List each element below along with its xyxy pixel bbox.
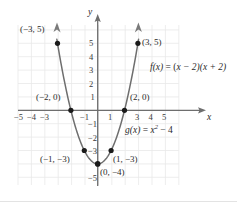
point-label-0-neg4: (0, −4)	[100, 168, 125, 177]
y-tick-2: 2	[89, 80, 93, 89]
point-2-0	[122, 108, 127, 113]
x-tick-minus5: −5	[14, 113, 23, 122]
point-label-1-neg3: (1, −3)	[113, 155, 138, 164]
x-tick-1: 1	[108, 113, 112, 122]
x-tick-3: 3	[135, 113, 139, 122]
x-tick-minus4: −4	[27, 113, 36, 122]
y-axis-label: y	[88, 8, 92, 18]
function-g-equation: g(x) = x2 − 4	[125, 124, 173, 136]
point-label-neg1-neg3: (−1, −3)	[40, 155, 70, 164]
point-1-neg3	[109, 148, 114, 153]
point-0-neg4	[95, 161, 101, 167]
point-label-2-0: (2, 0)	[130, 93, 150, 102]
bottom-divider	[0, 201, 237, 202]
point-neg3-5	[55, 41, 60, 46]
y-tick-minus3: −3	[88, 147, 97, 156]
function-f-body: x − 2)(x + 2)	[176, 62, 226, 72]
function-f-arg: (x)	[153, 62, 164, 72]
function-g-eq-sign: =	[140, 125, 150, 135]
x-tick-4: 4	[149, 113, 153, 122]
point-3-5	[135, 41, 140, 46]
function-g-tail: − 4	[158, 125, 173, 135]
graph-figure: y x −5 −4 −3 −1 1 3 4 5 5 4 3 2 1 −1 −2 …	[0, 0, 237, 202]
y-tick-5: 5	[89, 39, 93, 48]
y-tick-3: 3	[89, 66, 93, 75]
x-tick-5: 5	[162, 113, 166, 122]
y-tick-minus5: −5	[88, 174, 97, 183]
function-f-eq-sign: = (	[163, 62, 176, 72]
x-tick-minus3: −3	[40, 113, 49, 122]
y-tick-1: 1	[91, 93, 95, 102]
curve-left-arrowhead	[54, 23, 61, 33]
point-label-neg3-5: (−3, 5)	[20, 25, 45, 34]
point-neg2-0	[68, 108, 73, 113]
point-label-neg2-0: (−2, 0)	[36, 93, 61, 102]
y-tick-4: 4	[89, 53, 93, 62]
point-neg1-neg3	[82, 148, 87, 153]
y-tick-minus1: −1	[88, 120, 97, 129]
point-label-3-5: (3, 5)	[142, 38, 162, 47]
x-axis-label: x	[207, 113, 211, 123]
function-f-equation: f(x) = (x − 2)(x + 2)	[150, 63, 226, 73]
function-g-arg: (x)	[130, 125, 141, 135]
y-tick-minus2: −2	[88, 134, 97, 143]
